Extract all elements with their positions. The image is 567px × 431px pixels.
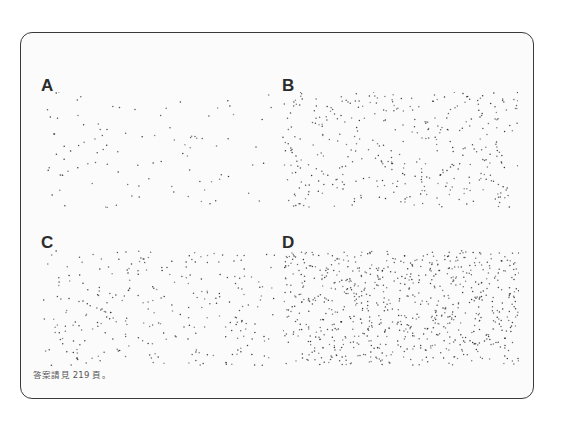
panel-d-dot-field [283,250,519,366]
panel-d-label: D [282,234,294,251]
panel-c-label: C [41,234,53,251]
panel-a-dot-field [43,92,273,208]
answer-page-note: 答案請見 219 頁。 [33,368,111,380]
panel-b-dot-field [282,92,518,208]
panel-c-dot-field [43,250,275,366]
